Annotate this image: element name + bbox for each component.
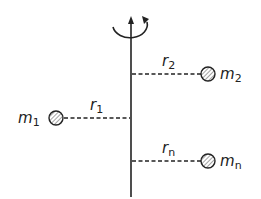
mass-m1: r1 m1	[18, 96, 130, 129]
radius-label-rn: rn	[162, 139, 175, 159]
mass-mn: rn mn	[132, 139, 242, 172]
mass-label-mn: mn	[220, 152, 242, 172]
mass-m2: r2 m2	[132, 52, 242, 85]
radius-label-r1: r1	[90, 96, 103, 116]
rotation-axis	[128, 16, 134, 197]
rotation-diagram: r2 m2 r1 m1 rn mn	[0, 0, 261, 199]
radius-label-r2: r2	[162, 52, 175, 72]
mass-label-m1: m1	[18, 109, 40, 129]
mass-label-m2: m2	[220, 65, 242, 85]
